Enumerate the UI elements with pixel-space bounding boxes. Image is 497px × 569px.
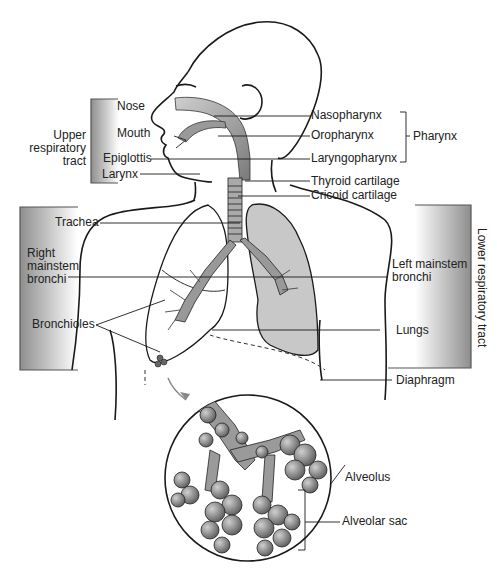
label-larynx: Larynx — [102, 168, 138, 181]
right-side-panel — [20, 207, 78, 370]
upper-respiratory-tract-label: Upper respiratory tract — [20, 129, 86, 168]
label-cricoid-cartilage: Cricoid cartilage — [311, 189, 397, 202]
label-nasopharynx: Nasopharynx — [311, 109, 382, 122]
label-lungs: Lungs — [396, 324, 429, 337]
label-pharynx: Pharynx — [413, 130, 457, 143]
magnify-arrow — [168, 378, 190, 400]
upper-airway — [174, 97, 250, 180]
label-lower-respiratory-tract: Lower respiratory tract — [475, 228, 489, 347]
label-diaphragm: Diaphragm — [396, 374, 455, 387]
alveoli-magnified-view — [165, 395, 331, 561]
right-lung — [146, 205, 228, 363]
upper-tract-line-3: tract — [20, 155, 86, 168]
label-right-mainstem-bronchi: Right mainstem bronchi — [27, 247, 79, 286]
trachea — [228, 178, 242, 242]
label-epiglottis: Epiglottis — [103, 152, 152, 165]
left-mainstem-line-2: bronchi — [392, 271, 467, 284]
label-thyroid-cartilage: Thyroid cartilage — [311, 175, 400, 188]
label-trachea: Trachea — [55, 216, 99, 229]
label-left-mainstem-bronchi: Left mainstem bronchi — [392, 258, 467, 284]
right-mainstem-line-3: bronchi — [27, 273, 79, 286]
head-outline — [152, 22, 322, 200]
label-mouth: Mouth — [117, 127, 150, 140]
label-alveolus: Alveolus — [345, 471, 390, 484]
label-alveolar-sac: Alveolar sac — [342, 515, 407, 528]
label-bronchioles: Bronchioles — [32, 318, 95, 331]
lower-tract-panel — [388, 205, 471, 368]
label-oropharynx: Oropharynx — [311, 129, 374, 142]
label-laryngopharynx: Laryngopharynx — [311, 152, 397, 165]
label-nose: Nose — [117, 100, 145, 113]
